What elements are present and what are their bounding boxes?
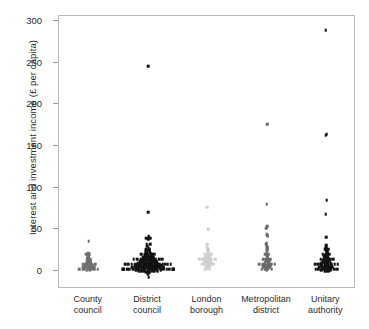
data-point	[128, 268, 131, 271]
data-point	[266, 123, 269, 126]
data-point	[204, 268, 207, 271]
data-point	[149, 243, 152, 246]
data-point	[172, 268, 175, 271]
y-tick-label: 200	[26, 98, 42, 109]
x-category-label: Countycouncil	[73, 294, 102, 316]
data-point	[97, 268, 100, 271]
data-point	[78, 268, 81, 271]
data-point	[336, 268, 339, 271]
data-point	[265, 227, 268, 230]
y-tick-mark	[53, 145, 58, 146]
data-point	[147, 276, 150, 279]
y-tick-label: 150	[26, 140, 42, 151]
x-category-line: London	[190, 294, 223, 305]
x-category-line: district	[241, 305, 291, 316]
data-point	[212, 263, 215, 266]
data-point	[325, 134, 328, 137]
data-point	[332, 258, 335, 261]
data-point	[198, 258, 201, 261]
x-category-line: Metropolitan	[241, 294, 291, 305]
data-point	[127, 263, 130, 266]
data-point	[324, 29, 327, 32]
data-point	[88, 240, 91, 243]
data-point	[206, 206, 209, 209]
y-axis-ticks: 050100150200250300	[0, 0, 52, 329]
y-tick-label: 50	[31, 223, 42, 234]
x-category-line: council	[73, 305, 102, 316]
y-tick-label: 250	[26, 56, 42, 67]
x-category-label: Londonborough	[190, 294, 223, 316]
y-tick-mark	[53, 20, 58, 21]
y-tick-mark	[53, 187, 58, 188]
data-point	[258, 263, 261, 266]
data-point	[317, 268, 320, 271]
data-point	[327, 270, 330, 273]
x-category-label: Districtcouncil	[133, 294, 161, 316]
y-tick-label: 0	[37, 265, 42, 276]
x-category-line: Unitary	[308, 294, 343, 305]
y-tick-mark	[53, 228, 58, 229]
data-point	[132, 258, 135, 261]
chart-figure: Interest and investment income (£ per ca…	[0, 0, 369, 329]
data-point	[325, 213, 328, 216]
data-point	[265, 203, 268, 206]
data-point	[93, 268, 96, 271]
data-point	[153, 270, 156, 273]
data-point	[325, 236, 328, 239]
y-tick-label: 300	[26, 15, 42, 26]
x-category-label: Metropolitandistrict	[241, 294, 291, 316]
data-point	[88, 269, 91, 272]
x-category-line: borough	[190, 305, 223, 316]
data-point	[160, 269, 163, 272]
data-point	[168, 268, 171, 271]
data-point	[266, 235, 269, 238]
data-point	[266, 269, 269, 272]
y-tick-mark	[53, 103, 58, 104]
y-tick-label: 100	[26, 181, 42, 192]
data-point	[170, 263, 173, 266]
x-category-line: council	[133, 305, 161, 316]
x-category-line: authority	[308, 305, 343, 316]
data-point	[207, 228, 210, 231]
data-point	[161, 258, 164, 261]
x-category-line: District	[133, 294, 161, 305]
data-point	[122, 268, 125, 271]
data-point	[325, 199, 328, 202]
data-point	[147, 211, 150, 214]
plot-area	[58, 15, 355, 288]
data-point	[147, 65, 150, 68]
y-tick-mark	[53, 270, 58, 271]
data-point	[273, 263, 276, 266]
data-point	[214, 258, 217, 261]
data-point	[156, 270, 159, 273]
x-category-line: County	[73, 294, 102, 305]
data-point	[147, 238, 150, 241]
data-point	[260, 268, 263, 271]
data-point	[336, 263, 339, 266]
x-category-label: Unitaryauthority	[308, 294, 343, 316]
data-point	[270, 268, 273, 271]
y-tick-mark	[53, 62, 58, 63]
data-point	[320, 269, 323, 272]
data-point	[208, 268, 211, 271]
